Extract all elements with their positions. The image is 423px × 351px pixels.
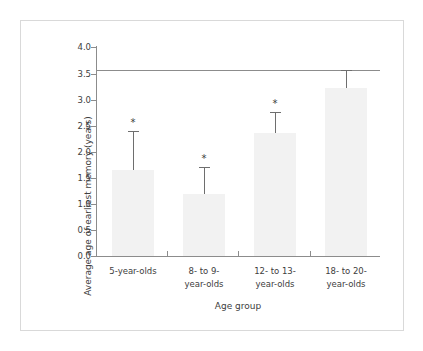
significance-marker-8-to-9-year-olds: *: [197, 154, 211, 164]
y-tick-label: 3.0: [65, 96, 91, 104]
y-tick-mark: [91, 152, 96, 153]
x-tick-label-18-to-20-year-olds: 18- to 20- year-olds: [306, 265, 386, 290]
y-tick-mark: [91, 74, 96, 75]
y-tick-label: 2.0: [65, 148, 91, 156]
reference-line-3-5: [96, 70, 380, 71]
error-bar-stem-5-year-olds: [133, 131, 134, 170]
x-tick-label-8-to-9-year-olds: 8- to 9- year-olds: [164, 265, 244, 290]
x-tick-label-line: 18- to 20-: [306, 265, 386, 278]
plot-area: Average age of earliest memory (years) 0…: [0, 0, 423, 351]
y-tick-mark: [91, 126, 96, 127]
x-tick-label-line: year-olds: [235, 278, 315, 291]
y-tick-label: 4.0: [65, 43, 91, 51]
x-tick-label-5-year-olds: 5-year-olds: [93, 265, 173, 278]
error-bar-stem-12-to-13-year-olds: [275, 112, 276, 133]
y-tick-label: 1.5: [65, 174, 91, 182]
error-bar-cap-12-to-13-year-olds: [270, 112, 281, 113]
figure-canvas: Average age of earliest memory (years) 0…: [0, 0, 423, 351]
bar-12-to-13-year-olds: [254, 133, 296, 256]
y-tick-mark: [91, 47, 96, 48]
x-tick-label-line: year-olds: [306, 278, 386, 291]
bar-18-to-20-year-olds: [325, 88, 367, 256]
y-axis-line: [96, 46, 97, 257]
x-tick-label-line: 8- to 9-: [164, 265, 244, 278]
bar-5-year-olds: [112, 170, 154, 256]
y-tick-label: 3.5: [65, 70, 91, 78]
x-axis-separator-tick: [167, 251, 168, 257]
bar-8-to-9-year-olds: [183, 194, 225, 256]
significance-marker-12-to-13-year-olds: *: [268, 99, 282, 109]
y-tick-label: 0.0: [65, 252, 91, 260]
error-bar-stem-8-to-9-year-olds: [204, 167, 205, 194]
y-tick-mark: [91, 230, 96, 231]
error-bar-cap-5-year-olds: [128, 131, 139, 132]
y-tick-mark: [91, 256, 96, 257]
x-tick-label-line: 12- to 13-: [235, 265, 315, 278]
error-bar-cap-8-to-9-year-olds: [199, 167, 210, 168]
y-tick-label: 0.5: [65, 226, 91, 234]
y-axis-title-container: Average age of earliest memory (years): [48, 51, 62, 251]
x-axis-title: Age group: [96, 301, 380, 311]
x-tick-label-line: 5-year-olds: [93, 265, 173, 278]
x-tick-label-line: year-olds: [164, 278, 244, 291]
x-axis-separator-tick: [310, 251, 311, 257]
y-tick-mark: [91, 204, 96, 205]
x-tick-label-12-to-13-year-olds: 12- to 13- year-olds: [235, 265, 315, 290]
y-tick-mark: [91, 178, 96, 179]
x-axis-separator-tick: [238, 251, 239, 257]
error-bar-cap-18-to-20-year-olds: [341, 70, 352, 71]
y-tick-label: 2.5: [65, 122, 91, 130]
y-tick-mark: [91, 100, 96, 101]
error-bar-stem-18-to-20-year-olds: [346, 70, 347, 88]
significance-marker-5-year-olds: *: [126, 118, 140, 128]
y-tick-label: 1.0: [65, 200, 91, 208]
